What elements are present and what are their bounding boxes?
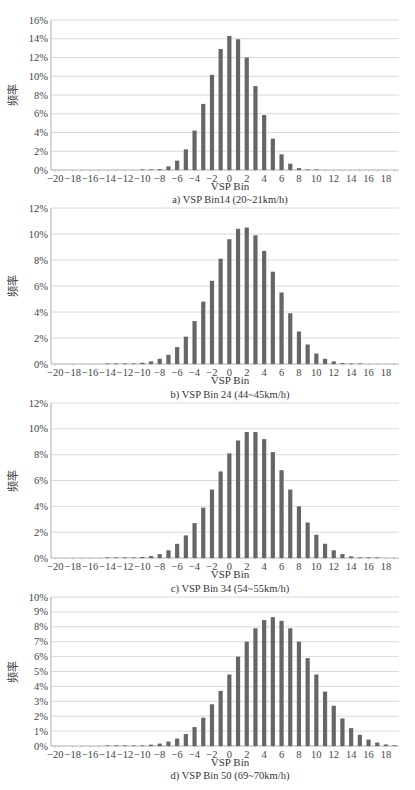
- bar: [236, 440, 240, 558]
- y-axis-label: 频率: [6, 470, 20, 492]
- bar: [271, 452, 275, 558]
- y-tick-label: 0%: [34, 165, 48, 176]
- bar: [306, 522, 310, 558]
- y-tick-label: 12%: [29, 398, 49, 409]
- y-tick-label: 4%: [34, 127, 48, 138]
- x-tick-label: −4: [189, 173, 201, 184]
- y-tick-label: 14%: [29, 33, 49, 44]
- bar: [253, 432, 257, 558]
- bar: [140, 745, 144, 746]
- bar: [184, 734, 188, 746]
- x-tick-label: −16: [82, 173, 98, 184]
- bar: [253, 235, 257, 364]
- x-tick-label: 8: [296, 367, 301, 378]
- bar: [210, 75, 214, 170]
- x-tick-label: 6: [279, 173, 284, 184]
- x-tick-label: 12: [329, 173, 340, 184]
- bar: [227, 239, 231, 364]
- x-tick-label: −4: [189, 367, 201, 378]
- bar: [349, 556, 353, 558]
- y-tick-label: 7%: [34, 636, 48, 647]
- x-tick-label: 6: [279, 367, 284, 378]
- bar: [158, 744, 162, 746]
- bar: [175, 544, 179, 558]
- bar: [262, 620, 266, 746]
- y-tick-label: 6%: [34, 651, 48, 662]
- bar: [358, 363, 362, 364]
- bar: [166, 742, 170, 746]
- y-tick-label: 8%: [34, 90, 48, 101]
- y-axis-label: 频率: [6, 661, 20, 683]
- chart-caption: d) VSP Bin 50 (69~70km/h): [171, 770, 290, 782]
- x-tick-label: −2: [206, 367, 217, 378]
- bar: [288, 164, 292, 170]
- bar: [279, 293, 283, 365]
- bar: [236, 657, 240, 746]
- bar: [166, 355, 170, 364]
- bar: [288, 628, 292, 746]
- x-tick-label: −18: [65, 173, 81, 184]
- bar: [306, 658, 310, 746]
- x-tick-label: 0: [227, 749, 232, 760]
- x-tick-label: 0: [227, 367, 232, 378]
- bar: [271, 617, 275, 746]
- x-tick-label: −20: [47, 749, 63, 760]
- x-tick-label: 14: [346, 367, 357, 378]
- x-tick-label: −18: [65, 561, 81, 572]
- x-tick-label: −10: [134, 749, 150, 760]
- x-tick-label: 4: [262, 367, 268, 378]
- bar: [192, 131, 196, 170]
- x-tick-label: −14: [99, 173, 116, 184]
- bar: [114, 745, 118, 746]
- bar: [227, 36, 231, 170]
- bar: [253, 628, 257, 746]
- chart-caption: c) VSP Bin 34 (54~55km/h): [171, 583, 290, 595]
- bar: [314, 674, 318, 746]
- y-tick-label: 4%: [34, 681, 48, 692]
- bar: [236, 229, 240, 364]
- x-tick-label: −6: [172, 561, 183, 572]
- x-tick-label: 2: [244, 173, 249, 184]
- x-tick-label: −16: [82, 367, 98, 378]
- bar: [332, 706, 336, 746]
- x-tick-label: −12: [117, 367, 133, 378]
- bar: [384, 745, 388, 746]
- x-tick-label: 14: [346, 749, 357, 760]
- bar: [149, 745, 153, 746]
- y-tick-label: 9%: [34, 606, 48, 617]
- bar: [306, 169, 310, 170]
- y-axis-label: 频率: [6, 275, 20, 297]
- bar: [314, 354, 318, 364]
- bar: [184, 337, 188, 364]
- bar: [349, 363, 353, 364]
- x-tick-label: −18: [65, 749, 81, 760]
- bar: [340, 718, 344, 746]
- bar: [210, 490, 214, 558]
- y-tick-label: 4%: [34, 501, 48, 512]
- bar: [123, 557, 127, 558]
- x-tick-label: −8: [154, 367, 165, 378]
- x-tick-label: 10: [311, 749, 322, 760]
- bar: [219, 691, 223, 746]
- bar: [262, 251, 266, 364]
- bar: [184, 535, 188, 558]
- chart-caption: b) VSP Bin 24 (44~45km/h): [171, 389, 290, 401]
- bar: [123, 745, 127, 746]
- x-tick-label: −18: [65, 367, 81, 378]
- bar: [149, 556, 153, 558]
- bar: [271, 272, 275, 364]
- bar: [297, 168, 301, 170]
- bar: [262, 439, 266, 558]
- bar: [227, 674, 231, 746]
- x-tick-label: 6: [279, 749, 284, 760]
- x-tick-label: 4: [262, 561, 268, 572]
- bar: [393, 745, 397, 746]
- x-tick-label: 4: [262, 749, 268, 760]
- bar: [114, 557, 118, 558]
- bar: [375, 557, 379, 558]
- x-tick-label: 16: [363, 561, 374, 572]
- bar: [158, 169, 162, 170]
- bar: [105, 557, 109, 558]
- x-tick-label: 0: [227, 173, 232, 184]
- y-tick-label: 0%: [34, 359, 48, 370]
